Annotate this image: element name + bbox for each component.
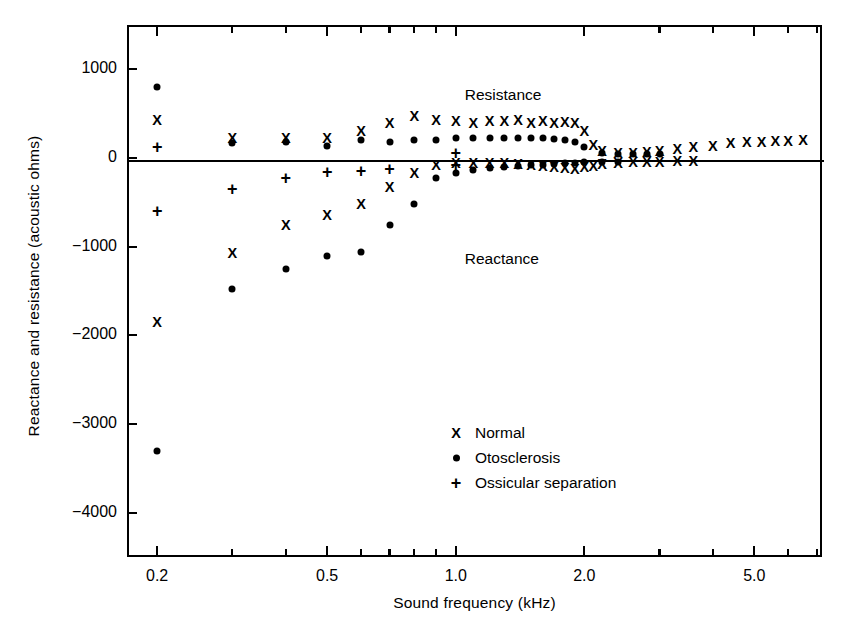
data-point-plus: + bbox=[384, 160, 395, 178]
x-tick bbox=[658, 549, 660, 557]
x-tick-top bbox=[583, 25, 585, 36]
data-point-dot bbox=[561, 137, 568, 144]
data-point-dot bbox=[581, 159, 588, 166]
x-tick-top bbox=[658, 25, 660, 33]
x-tick-top bbox=[435, 25, 437, 33]
data-point-dot bbox=[615, 158, 622, 165]
data-point-x: X bbox=[549, 115, 559, 130]
data-point-plus: + bbox=[152, 138, 163, 156]
x-tick bbox=[753, 546, 755, 557]
x-axis-title: Sound frequency (kHz) bbox=[127, 594, 822, 612]
data-point-x: X bbox=[469, 115, 479, 130]
x-tick-top bbox=[231, 25, 233, 33]
data-point-x: X bbox=[513, 113, 523, 128]
data-point-dot bbox=[527, 162, 534, 169]
dot-icon bbox=[453, 454, 460, 461]
legend-marker-x-icon: X bbox=[447, 425, 465, 441]
data-point-dot bbox=[470, 134, 477, 141]
data-point-x: X bbox=[228, 246, 238, 261]
data-point-dot bbox=[599, 149, 606, 156]
x-tick-top bbox=[787, 25, 789, 33]
legend-label: Ossicular separation bbox=[475, 474, 616, 492]
data-point-dot bbox=[470, 166, 477, 173]
chart-root: Reactance and resistance (acoustic ohms)… bbox=[0, 0, 842, 633]
data-point-x: X bbox=[322, 207, 332, 222]
legend-marker-dot-icon bbox=[447, 454, 465, 461]
data-point-x: X bbox=[689, 153, 699, 168]
x-tick-top bbox=[326, 25, 328, 36]
y-tick-label: 1000 bbox=[0, 59, 117, 77]
x-tick bbox=[455, 546, 457, 557]
data-point-dot bbox=[599, 158, 606, 165]
data-point-x: X bbox=[742, 135, 752, 150]
data-point-dot bbox=[324, 252, 331, 259]
data-point-dot bbox=[386, 221, 393, 228]
data-point-dot bbox=[527, 135, 534, 142]
x-tick-top bbox=[753, 25, 755, 36]
data-point-dot bbox=[452, 134, 459, 141]
y-tick-label: −2000 bbox=[0, 325, 117, 343]
data-point-x: X bbox=[783, 134, 793, 149]
data-point-plus: + bbox=[152, 202, 163, 220]
x-tick-label: 1.0 bbox=[416, 567, 496, 585]
data-point-dot bbox=[571, 139, 578, 146]
data-point-x: X bbox=[152, 315, 162, 330]
x-tick-top bbox=[816, 25, 818, 33]
data-point-x: X bbox=[281, 217, 291, 232]
data-point-dot bbox=[282, 139, 289, 146]
data-point-x: X bbox=[410, 109, 420, 124]
data-point-x: X bbox=[708, 138, 718, 153]
x-tick bbox=[156, 546, 158, 557]
x-tick-top bbox=[285, 25, 287, 33]
data-point-x: X bbox=[672, 153, 682, 168]
x-tick bbox=[816, 549, 818, 557]
x-tick-top bbox=[455, 25, 457, 36]
data-point-dot bbox=[561, 160, 568, 167]
data-point-x: X bbox=[500, 114, 510, 129]
data-point-dot bbox=[501, 163, 508, 170]
y-tick bbox=[127, 68, 137, 70]
x-tick-top bbox=[712, 25, 714, 33]
chart-annotation: Reactance bbox=[465, 250, 539, 268]
data-point-x: X bbox=[526, 115, 536, 130]
data-point-dot bbox=[411, 137, 418, 144]
data-point-x: X bbox=[485, 114, 495, 129]
legend-label: Otosclerosis bbox=[475, 449, 560, 467]
x-tick bbox=[388, 549, 390, 557]
data-point-dot bbox=[486, 134, 493, 141]
data-point-x: X bbox=[385, 115, 395, 130]
data-point-x: X bbox=[771, 134, 781, 149]
data-point-dot bbox=[571, 160, 578, 167]
x-tick bbox=[326, 546, 328, 557]
x-tick bbox=[360, 549, 362, 557]
y-tick bbox=[127, 246, 137, 248]
data-point-dot bbox=[630, 151, 637, 158]
data-point-dot bbox=[324, 143, 331, 150]
data-point-dot bbox=[643, 151, 650, 158]
data-point-dot bbox=[229, 286, 236, 293]
data-point-x: X bbox=[451, 114, 461, 129]
x-tick bbox=[787, 549, 789, 557]
data-point-dot bbox=[551, 161, 558, 168]
data-point-dot bbox=[154, 84, 161, 91]
y-axis-title: Reactance and resistance (acoustic ohms) bbox=[25, 76, 43, 496]
data-point-dot bbox=[501, 134, 508, 141]
data-point-x: X bbox=[538, 114, 548, 129]
data-point-dot bbox=[486, 164, 493, 171]
legend-label: Normal bbox=[475, 424, 525, 442]
legend-marker-plus-icon: + bbox=[447, 472, 465, 493]
x-tick bbox=[435, 549, 437, 557]
x-tick bbox=[231, 549, 233, 557]
data-point-x: X bbox=[798, 133, 808, 148]
x-tick-top bbox=[388, 25, 390, 33]
x-tick bbox=[285, 549, 287, 557]
x-tick-top bbox=[413, 25, 415, 33]
data-point-x: X bbox=[560, 114, 570, 129]
data-point-x: X bbox=[385, 180, 395, 195]
x-tick-top bbox=[156, 25, 158, 36]
x-tick-label: 5.0 bbox=[714, 567, 794, 585]
data-point-plus: + bbox=[227, 180, 238, 198]
data-point-plus: + bbox=[322, 163, 333, 181]
data-point-plus: + bbox=[356, 162, 367, 180]
x-tick-label: 2.0 bbox=[544, 567, 624, 585]
